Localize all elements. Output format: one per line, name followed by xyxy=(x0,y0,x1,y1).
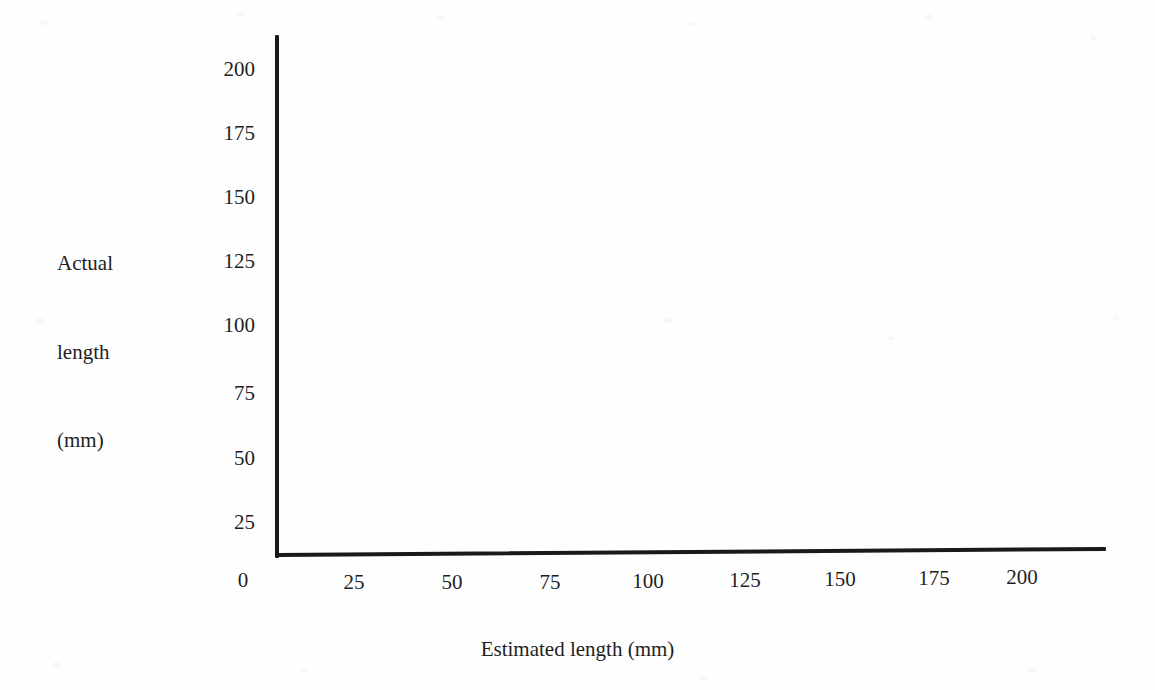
y-axis-title-line-1: Actual xyxy=(57,249,113,279)
x-tick-label: 0 xyxy=(238,570,249,591)
x-tick-label: 175 xyxy=(918,568,950,589)
x-tick-label: 150 xyxy=(824,569,856,590)
y-axis-title-line-2: length xyxy=(57,338,113,368)
x-tick-label: 25 xyxy=(344,572,365,593)
y-tick-label: 150 xyxy=(195,187,255,208)
y-tick-label: 75 xyxy=(195,383,255,404)
x-tick-label: 100 xyxy=(632,571,664,592)
y-axis-title: Actual length (mm) xyxy=(57,190,113,515)
y-tick-label: 125 xyxy=(195,251,255,272)
y-axis-title-line-3: (mm) xyxy=(57,426,113,456)
x-tick-label: 200 xyxy=(1006,567,1038,588)
y-tick-label: 100 xyxy=(195,315,255,336)
x-axis-title: Estimated length (mm) xyxy=(0,637,1155,662)
x-tick-label: 125 xyxy=(729,570,761,591)
chart-figure: 200 175 150 125 100 75 50 25 0 25 50 75 … xyxy=(0,0,1155,690)
y-tick-label: 25 xyxy=(195,512,255,533)
y-axis-line xyxy=(275,35,279,558)
y-tick-label: 175 xyxy=(195,123,255,144)
x-tick-label: 75 xyxy=(540,572,561,593)
y-tick-label: 200 xyxy=(195,59,255,80)
plot-area xyxy=(279,36,1105,554)
y-tick-label: 50 xyxy=(195,448,255,469)
x-tick-label: 50 xyxy=(442,572,463,593)
